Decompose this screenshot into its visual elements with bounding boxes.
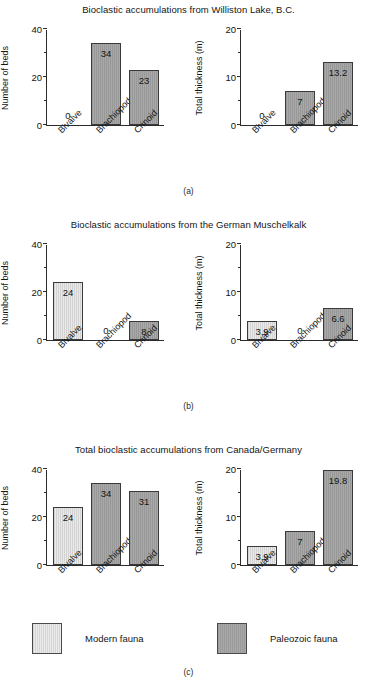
y-tick-major bbox=[237, 243, 242, 244]
bar-value-label: 31 bbox=[130, 496, 158, 507]
y-tick-label: 0 bbox=[37, 121, 42, 131]
y-tick-major bbox=[237, 124, 242, 125]
bar-value-label: 24 bbox=[54, 512, 82, 523]
panel-b-caption: (b) bbox=[0, 401, 377, 411]
y-tick-minor bbox=[238, 492, 241, 493]
y-tick-major bbox=[43, 516, 48, 517]
y-tick-minor bbox=[44, 267, 47, 268]
y-tick-minor bbox=[44, 100, 47, 101]
panel-a-title: Bioclastic accumulations from Williston … bbox=[0, 4, 377, 15]
y-axis-label: Total thickness (m) bbox=[194, 30, 206, 126]
y-tick-major bbox=[43, 468, 48, 469]
y-tick-minor bbox=[44, 315, 47, 316]
y-tick-label: 20 bbox=[31, 288, 42, 298]
y-tick-label: 0 bbox=[231, 336, 236, 346]
y-tick-minor bbox=[238, 315, 241, 316]
y-tick-label: 20 bbox=[225, 465, 236, 475]
bar-value-label: 34 bbox=[92, 488, 120, 499]
y-axis-label: Total thickness (m) bbox=[194, 245, 206, 341]
y-tick-minor bbox=[238, 267, 241, 268]
y-tick-minor bbox=[44, 540, 47, 541]
y-tick-label: 10 bbox=[225, 513, 236, 523]
y-axis-label: Number of beds bbox=[0, 245, 12, 341]
y-tick-label: 0 bbox=[231, 561, 236, 571]
bar-value-label: 34 bbox=[92, 48, 120, 59]
y-tick-minor bbox=[238, 52, 241, 53]
y-axis-label: Number of beds bbox=[0, 470, 12, 566]
y-tick-major bbox=[237, 291, 242, 292]
legend-label-paleozoic: Paleozoic fauna bbox=[270, 633, 338, 644]
legend-item-modern: Modern fauna bbox=[32, 623, 144, 654]
y-tick-major bbox=[237, 339, 242, 340]
y-tick-label: 10 bbox=[225, 73, 236, 83]
panel-b-title: Bioclastic accumulations from the German… bbox=[0, 219, 377, 230]
chart-c-left: Number of beds0204024Bivalve34Brachiopod… bbox=[2, 456, 177, 611]
y-axis-label: Total thickness (m) bbox=[194, 470, 206, 566]
plot-area: 020400Bivalve34Brachiopod23Crinoid bbox=[46, 30, 164, 126]
plot-area: 010200Bivalve7Brachiopod13.2Crinoid bbox=[240, 30, 358, 126]
y-tick-major bbox=[43, 339, 48, 340]
y-tick-major bbox=[43, 28, 48, 29]
plot-area: 0204024Bivalve34Brachiopod31Crinoid bbox=[46, 470, 164, 566]
y-tick-minor bbox=[44, 52, 47, 53]
panel-a-caption: (a) bbox=[0, 186, 377, 196]
panel-c-caption: (c) bbox=[0, 667, 377, 677]
y-tick-label: 40 bbox=[31, 465, 42, 475]
y-tick-label: 40 bbox=[31, 240, 42, 250]
y-tick-label: 20 bbox=[31, 73, 42, 83]
plot-area: 010203.9Bivalve7Brachiopod19.8Crinoid bbox=[240, 470, 358, 566]
chart-a-left: Number of beds020400Bivalve34Brachiopod2… bbox=[2, 16, 177, 171]
y-tick-label: 0 bbox=[37, 336, 42, 346]
y-tick-major bbox=[237, 516, 242, 517]
panel-c: Total bioclastic accumulations from Cana… bbox=[0, 440, 377, 688]
plot-area: 0204024Bivalve0Brachiopod8Crinoid bbox=[46, 245, 164, 341]
y-tick-label: 20 bbox=[31, 513, 42, 523]
panel-b: Bioclastic accumulations from the German… bbox=[0, 215, 377, 425]
chart-c-right: Total thickness (m)010203.9Bivalve7Brach… bbox=[196, 456, 371, 611]
y-axis-label: Number of beds bbox=[0, 30, 12, 126]
bar-value-label: 13.2 bbox=[324, 67, 352, 78]
legend-label-modern: Modern fauna bbox=[85, 633, 144, 644]
y-tick-major bbox=[43, 291, 48, 292]
y-tick-label: 20 bbox=[225, 25, 236, 35]
legend-swatch-paleozoic-icon bbox=[217, 623, 247, 654]
y-tick-major bbox=[43, 243, 48, 244]
y-tick-label: 10 bbox=[225, 288, 236, 298]
y-tick-major bbox=[237, 76, 242, 77]
y-tick-label: 20 bbox=[225, 240, 236, 250]
chart-a-right: Total thickness (m)010200Bivalve7Brachio… bbox=[196, 16, 371, 171]
y-tick-major bbox=[43, 76, 48, 77]
y-tick-major bbox=[43, 564, 48, 565]
panel-c-title: Total bioclastic accumulations from Cana… bbox=[0, 444, 377, 455]
figure-bioclastic-accumulations: { "figure": { "panels": [ { "caption": "… bbox=[0, 0, 377, 688]
y-tick-major bbox=[237, 28, 242, 29]
bar-value-label: 23 bbox=[130, 75, 158, 86]
chart-b-left: Number of beds0204024Bivalve0Brachiopod8… bbox=[2, 231, 177, 386]
y-tick-label: 0 bbox=[37, 561, 42, 571]
bar-value-label: 6.6 bbox=[324, 313, 352, 324]
legend-item-paleozoic: Paleozoic fauna bbox=[217, 623, 338, 654]
y-tick-major bbox=[43, 124, 48, 125]
plot-area: 010203.9Bivalve0Brachiopod6.6Crinoid bbox=[240, 245, 358, 341]
y-tick-major bbox=[237, 468, 242, 469]
y-tick-major bbox=[237, 564, 242, 565]
y-tick-label: 40 bbox=[31, 25, 42, 35]
legend-swatch-modern-icon bbox=[32, 623, 62, 654]
y-tick-label: 0 bbox=[231, 121, 236, 131]
bar-value-label: 24 bbox=[54, 287, 82, 298]
y-tick-minor bbox=[44, 492, 47, 493]
y-tick-minor bbox=[238, 540, 241, 541]
bar-value-label: 19.8 bbox=[324, 475, 352, 486]
y-tick-minor bbox=[238, 100, 241, 101]
chart-b-right: Total thickness (m)010203.9Bivalve0Brach… bbox=[196, 231, 371, 386]
panel-a: Bioclastic accumulations from Williston … bbox=[0, 0, 377, 210]
